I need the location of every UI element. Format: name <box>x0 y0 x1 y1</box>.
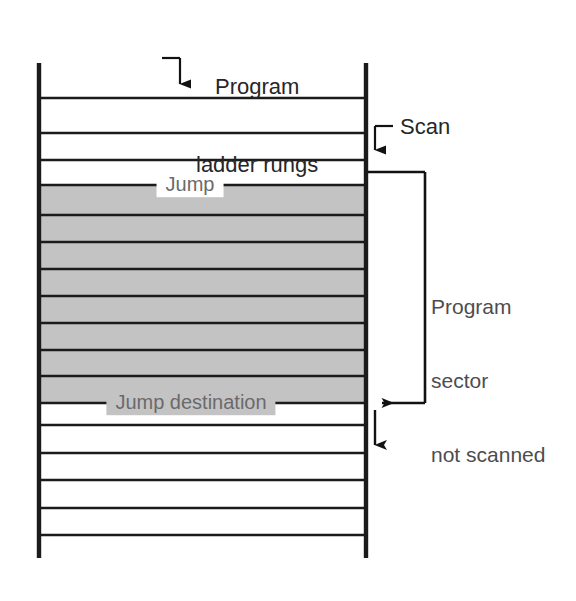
jump-label: Jump <box>157 173 224 197</box>
scan-label: Scan <box>400 114 450 140</box>
ladder-diagram: Program ladder rungs Scan Program sector… <box>0 0 576 601</box>
program-ladder-rungs-leader <box>162 58 180 84</box>
program-sector-line-1: Program <box>431 295 545 320</box>
jump-label-wrapper: Jump <box>157 173 224 197</box>
scan-leader <box>375 126 393 150</box>
jump-destination-label: Jump destination <box>106 391 275 415</box>
program-sector-line-2: sector <box>431 369 545 394</box>
jump-destination-label-wrapper: Jump destination <box>106 391 275 415</box>
program-ladder-rungs-label: Program ladder rungs <box>196 22 318 230</box>
jump-bypass-bracket <box>368 172 425 403</box>
program-ladder-rungs-line-1: Program <box>196 74 318 100</box>
ladder-rungs-lower <box>39 425 366 535</box>
program-sector-line-3: not scanned <box>431 443 545 468</box>
program-sector-not-scanned-label: Program sector not scanned <box>431 245 545 517</box>
